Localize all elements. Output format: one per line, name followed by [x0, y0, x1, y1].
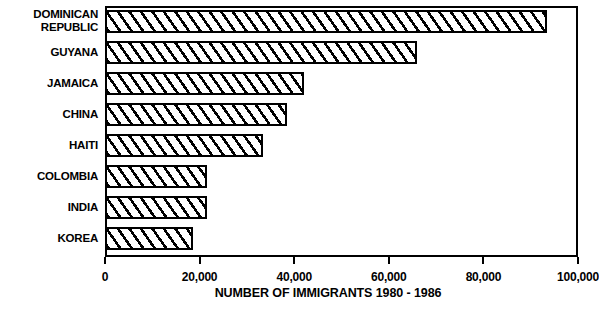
- x-tick-label-5: 100,000: [557, 270, 599, 284]
- x-tick-label-3: 60,000: [371, 270, 407, 284]
- category-label-china: CHINA: [63, 108, 98, 121]
- x-tick-2: [293, 257, 295, 264]
- x-axis-title-text: NUMBER OF IMMIGRANTS 1980 - 1986: [149, 286, 442, 300]
- category-label-korea: KOREA: [57, 232, 98, 245]
- category-label-haiti: HAITI: [69, 139, 98, 152]
- x-tick-label-2: 40,000: [276, 270, 312, 284]
- x-tick-0: [104, 257, 106, 264]
- category-label-jamaica: JAMAICA: [47, 77, 98, 90]
- x-axis-title: NUMBER OF IMMIGRANTS 1980 - 1986: [0, 286, 590, 300]
- category-axis-labels: DOMINICAN REPUBLIC GUYANA JAMAICA CHINA …: [0, 0, 101, 258]
- category-label-india: INDIA: [68, 201, 98, 214]
- x-tick-4: [482, 257, 484, 264]
- x-tick-label-4: 80,000: [466, 270, 502, 284]
- x-axis: 0 20,000 40,000 60,000 80,000 100,000: [105, 6, 578, 257]
- x-tick-3: [388, 257, 390, 264]
- x-tick-label-1: 20,000: [182, 270, 218, 284]
- x-tick-label-0: 0: [102, 270, 108, 284]
- x-tick-5: [577, 257, 579, 264]
- x-tick-1: [199, 257, 201, 264]
- category-label-dominican-republic: DOMINICAN REPUBLIC: [33, 8, 98, 33]
- category-label-guyana: GUYANA: [50, 46, 98, 59]
- category-label-colombia: COLOMBIA: [37, 170, 98, 183]
